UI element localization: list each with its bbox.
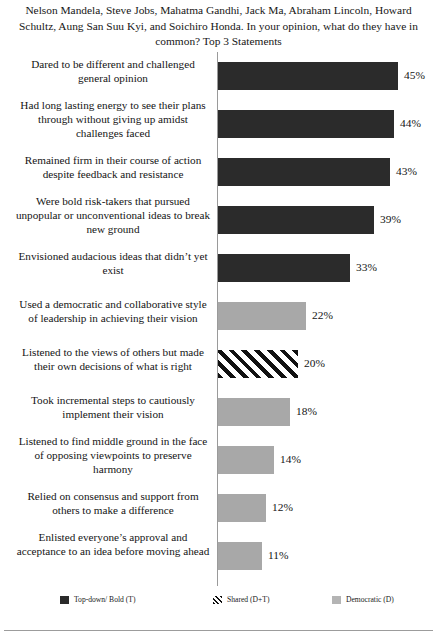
bar-value-label: 11% <box>268 548 288 562</box>
bar-shape <box>218 254 350 282</box>
legend-item-democratic[interactable]: Democratic (D) <box>332 595 394 604</box>
bar-category-label: Were bold risk-takers that pursued unpop… <box>14 194 212 237</box>
bar-value-label: 20% <box>304 356 325 370</box>
bar-value-label: 14% <box>280 452 301 466</box>
bar-category-label: Used a democratic and collaborative styl… <box>14 297 212 325</box>
bar-value-label: 22% <box>312 308 333 322</box>
bar-row: Were bold risk-takers that pursued unpop… <box>0 196 437 244</box>
bar-row: Dared to be different and challenged gen… <box>0 52 437 100</box>
bar-category-label: Remained firm in their course of action … <box>14 153 212 181</box>
bar-row: Envisioned audacious ideas that didn’t y… <box>0 244 437 292</box>
bar-row: Listened to find middle ground in the fa… <box>0 436 437 484</box>
bar-category-label: Dared to be different and challenged gen… <box>14 57 212 85</box>
legend-item-top-down[interactable]: Top-down/ Bold (T) <box>60 595 135 604</box>
bar-row: Relied on consensus and support from oth… <box>0 484 437 532</box>
bar-shape <box>218 206 374 234</box>
legend-label: Democratic (D) <box>346 595 394 604</box>
bar-shape <box>218 350 298 378</box>
bar-shape <box>218 398 290 426</box>
bar-category-label: Listened to the views of others but made… <box>14 345 212 373</box>
bar-shape <box>218 302 306 330</box>
bar-value-label: 45% <box>404 68 425 82</box>
bar-category-label: Relied on consensus and support from oth… <box>14 489 212 517</box>
bar-value-label: 33% <box>356 260 377 274</box>
chart-plot-area: Dared to be different and challenged gen… <box>0 52 437 587</box>
legend-item-shared[interactable]: Shared (D+T) <box>213 595 269 604</box>
legend-swatch-dark-icon <box>60 596 69 604</box>
bar-value-label: 18% <box>296 404 317 418</box>
bar-shape <box>218 542 262 570</box>
bar-row: Took incremental steps to cautiously imp… <box>0 388 437 436</box>
bar-category-label: Envisioned audacious ideas that didn’t y… <box>14 249 212 277</box>
footer-divider <box>4 630 433 631</box>
bar-value-label: 39% <box>380 212 401 226</box>
bar-shape <box>218 446 274 474</box>
bar-category-label: Listened to find middle ground in the fa… <box>14 434 212 477</box>
legend-swatch-gray-icon <box>332 596 341 604</box>
bar-category-label: Had long lasting energy to see their pla… <box>14 98 212 141</box>
legend-label: Shared (D+T) <box>227 595 269 604</box>
bar-shape <box>218 158 390 186</box>
bar-row: Listened to the views of others but made… <box>0 340 437 388</box>
bar-category-label: Enlisted everyone’s approval and accepta… <box>14 530 212 558</box>
chart-legend: Top-down/ Bold (T) Shared (D+T) Democrat… <box>0 595 437 615</box>
bar-shape <box>218 62 398 90</box>
bar-row: Had long lasting energy to see their pla… <box>0 100 437 148</box>
bar-row: Enlisted everyone’s approval and accepta… <box>0 532 437 580</box>
bar-row: Remained firm in their course of action … <box>0 148 437 196</box>
bar-row: Used a democratic and collaborative styl… <box>0 292 437 340</box>
bar-shape <box>218 110 394 138</box>
bar-category-label: Took incremental steps to cautiously imp… <box>14 393 212 421</box>
bar-value-label: 44% <box>400 116 421 130</box>
bar-value-label: 12% <box>272 500 293 514</box>
legend-label: Top-down/ Bold (T) <box>74 595 135 604</box>
chart-title: Nelson Mandela, Steve Jobs, Mahatma Gand… <box>18 3 419 50</box>
bar-shape <box>218 494 266 522</box>
bar-value-label: 43% <box>396 164 417 178</box>
legend-swatch-hatch-icon <box>213 596 222 604</box>
